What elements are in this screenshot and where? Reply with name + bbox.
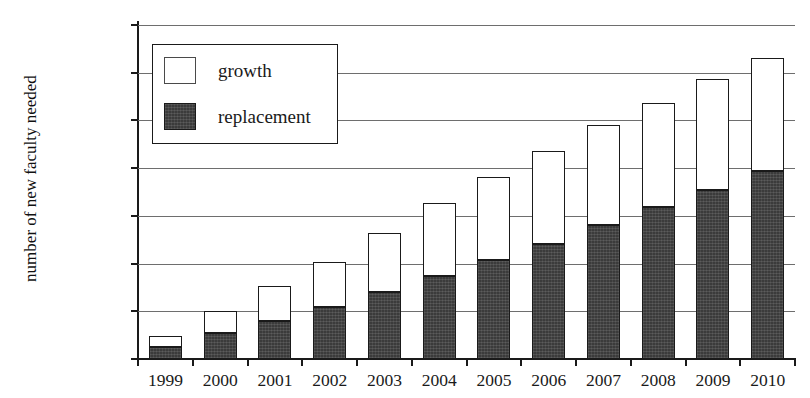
bar-segment-replacement	[532, 244, 565, 359]
x-axis-tick-label: 2001	[248, 372, 303, 390]
bar-segment-replacement	[477, 260, 510, 359]
legend: growth replacement	[152, 44, 338, 144]
x-axis-tick	[630, 359, 632, 366]
bar-stack	[423, 203, 456, 359]
x-axis-tick	[575, 359, 577, 366]
x-axis-tick-label: 1999	[138, 372, 193, 390]
x-axis-tick	[137, 359, 139, 366]
bar-segment-replacement	[587, 225, 620, 359]
x-axis-tick-label: 2006	[521, 372, 576, 390]
bar-stack	[313, 262, 346, 359]
legend-swatch-growth-icon	[164, 57, 196, 84]
bar-segment-growth	[368, 233, 401, 292]
x-axis-tick	[685, 359, 687, 366]
y-axis-tick	[131, 167, 138, 169]
legend-swatch-replacement-icon	[164, 103, 196, 130]
legend-item-growth: growth	[164, 57, 272, 84]
bar-stack	[149, 336, 182, 359]
bar-segment-growth	[313, 262, 346, 307]
bar-segment-replacement	[368, 292, 401, 359]
bar-stack	[477, 177, 510, 359]
x-axis-tick	[739, 359, 741, 366]
x-axis-tick	[192, 359, 194, 366]
x-axis-tick-label: 2009	[686, 372, 741, 390]
x-axis-tick-label: 2010	[740, 372, 795, 390]
legend-label-replacement: replacement	[218, 107, 311, 126]
x-axis-tick-label: 2003	[357, 372, 412, 390]
bar-segment-growth	[258, 286, 291, 321]
bar-segment-growth	[149, 336, 182, 347]
bar-segment-replacement	[696, 190, 729, 359]
x-axis-tick	[301, 359, 303, 366]
bar-stack	[696, 79, 729, 359]
y-axis-tick	[131, 72, 138, 74]
bar-segment-replacement	[149, 347, 182, 359]
y-axis-tick	[131, 263, 138, 265]
legend-label-growth: growth	[218, 61, 272, 80]
legend-item-replacement: replacement	[164, 103, 311, 130]
bar-stack	[258, 286, 291, 359]
y-axis-tick	[131, 215, 138, 217]
bar-segment-growth	[587, 125, 620, 225]
bar-stack	[642, 103, 675, 359]
bar-segment-replacement	[642, 207, 675, 359]
chart-figure: number of new faculty needed 05,00010,00…	[0, 0, 810, 398]
y-axis-title: number of new faculty needed	[22, 9, 39, 349]
x-axis-tick-label: 2002	[302, 372, 357, 390]
bar-segment-growth	[751, 58, 784, 171]
bar-stack	[204, 311, 237, 359]
x-axis-tick	[466, 359, 468, 366]
bar-segment-growth	[477, 177, 510, 260]
bar-segment-growth	[204, 311, 237, 333]
x-axis-tick-label: 2005	[467, 372, 522, 390]
bar-segment-replacement	[204, 333, 237, 359]
x-axis-tick	[247, 359, 249, 366]
y-axis-tick	[131, 24, 138, 26]
x-axis-tick	[356, 359, 358, 366]
gridline	[138, 25, 795, 26]
bar-segment-replacement	[313, 307, 346, 359]
bar-segment-replacement	[751, 171, 784, 359]
x-axis-tick-label: 2008	[631, 372, 686, 390]
x-axis-tick	[794, 359, 796, 366]
bar-stack	[368, 233, 401, 359]
x-axis-tick-label: 2004	[412, 372, 467, 390]
x-axis-tick	[411, 359, 413, 366]
x-axis-tick-label: 2000	[193, 372, 248, 390]
x-axis-tick	[520, 359, 522, 366]
bar-stack	[587, 125, 620, 359]
bar-stack	[532, 151, 565, 359]
bar-segment-replacement	[258, 321, 291, 359]
y-axis-tick	[131, 310, 138, 312]
bar-segment-growth	[423, 203, 456, 276]
x-axis-tick-label: 2007	[576, 372, 631, 390]
bar-segment-replacement	[423, 276, 456, 359]
bar-segment-growth	[696, 79, 729, 190]
bar-stack	[751, 58, 784, 359]
bar-segment-growth	[532, 151, 565, 244]
y-axis-tick	[131, 119, 138, 121]
bar-segment-growth	[642, 103, 675, 207]
